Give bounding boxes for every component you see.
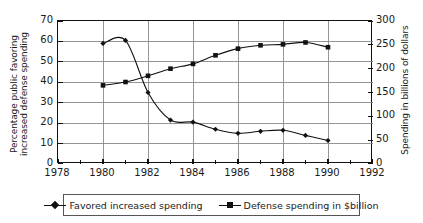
y-axis-left-title-line1: Percentage public favoring — [9, 19, 19, 169]
x-axis-tick-label: 1992 — [352, 168, 392, 178]
y-axis-left-title: Percentage public favoring increased def… — [9, 19, 29, 169]
y-axis-right-tick-label: 100 — [376, 110, 402, 120]
x-axis-tick-label: 1982 — [127, 168, 167, 178]
legend-item-favored-increased-spending: Favored increased spending — [44, 200, 202, 211]
x-axis-tick-label: 1984 — [172, 168, 212, 178]
y-axis-left-tick-label: 30 — [31, 97, 53, 107]
y-axis-right-tick-label: 50 — [376, 134, 402, 144]
data-point — [191, 62, 196, 67]
series-layer — [100, 37, 330, 143]
x-axis-tick-label: 1978 — [37, 168, 77, 178]
square-marker-icon — [219, 201, 241, 210]
data-point — [303, 133, 308, 138]
chart-legend: Favored increased spending Defense spend… — [63, 194, 360, 216]
x-axis-tick-label: 1980 — [82, 168, 122, 178]
data-point — [101, 83, 106, 88]
data-point — [325, 138, 330, 143]
y-axis-right-tick-label: 250 — [376, 39, 402, 49]
y-axis-left-tick-label: 20 — [31, 117, 53, 127]
data-point — [236, 46, 241, 51]
y-axis-left-tick-label: 70 — [31, 15, 53, 25]
legend-item-defense-spending: Defense spending in $billion — [219, 200, 379, 211]
data-point — [146, 74, 151, 79]
x-axis-tick-label: 1990 — [307, 168, 347, 178]
diamond-marker-icon — [44, 201, 66, 210]
series-line-0 — [103, 37, 328, 140]
data-point — [168, 66, 173, 71]
data-point — [280, 128, 285, 133]
data-point — [281, 42, 286, 47]
legend-label-defense-spending: Defense spending in $billion — [244, 200, 379, 211]
data-point — [258, 129, 263, 134]
x-axis-tick-label: 1988 — [262, 168, 302, 178]
chart-container: Percentage public favoring increased def… — [0, 0, 423, 223]
data-point — [190, 120, 195, 125]
y-axis-right-tick-label: 300 — [376, 15, 402, 25]
data-point — [258, 43, 263, 48]
plot-svg — [58, 21, 373, 164]
y-axis-left-tick-label: 10 — [31, 138, 53, 148]
y-axis-left-tick-label: 60 — [31, 35, 53, 45]
data-point — [235, 131, 240, 136]
legend-label-favored-increased-spending: Favored increased spending — [69, 200, 202, 211]
data-point — [145, 90, 150, 95]
data-point — [303, 40, 308, 45]
y-axis-right-tick-label: 200 — [376, 63, 402, 73]
y-axis-left-title-line2: increased defense spending — [19, 19, 29, 169]
plot-area — [57, 20, 372, 163]
data-point — [213, 53, 218, 58]
data-point — [326, 45, 331, 50]
y-axis-right-tick-label: 150 — [376, 87, 402, 97]
data-point — [123, 80, 128, 85]
y-axis-left-tick-label: 40 — [31, 76, 53, 86]
x-axis-tick-label: 1986 — [217, 168, 257, 178]
y-axis-left-tick-label: 50 — [31, 56, 53, 66]
data-point — [213, 127, 218, 132]
